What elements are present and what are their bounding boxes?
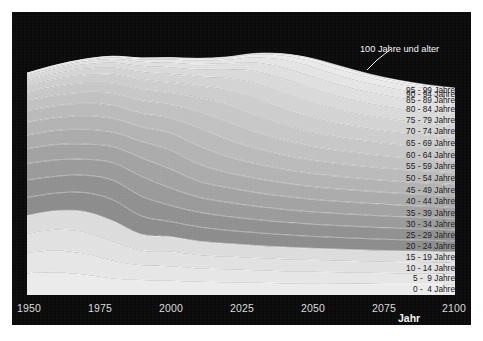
band-label: 30 - 34 Jahre	[406, 220, 455, 229]
callout-label: 100 Jahre und alter	[360, 44, 439, 54]
band-label: 75 - 79 Jahre	[406, 116, 455, 125]
band-label: 35 - 39 Jahre	[406, 209, 455, 218]
band-label: 70 - 74 Jahre	[406, 127, 455, 136]
band-label: 55 - 59 Jahre	[406, 162, 455, 171]
band-label: 25 - 29 Jahre	[406, 231, 455, 240]
figure-root: 95 - 99 Jahre90 - 94 Jahre85 - 89 Jahre8…	[0, 0, 483, 341]
band-label: 15 - 19 Jahre	[406, 253, 455, 262]
band-label: 45 - 49 Jahre	[406, 186, 455, 195]
band-label: 40 - 44 Jahre	[406, 197, 455, 206]
x-tick-2100: 2100	[442, 302, 466, 314]
x-tick-2000: 2000	[159, 302, 183, 314]
band-label: 0 - 4 Jahre	[413, 285, 455, 294]
band-label: 50 - 54 Jahre	[406, 174, 455, 183]
x-axis-title: Jahr	[398, 312, 420, 324]
band-label: 20 - 24 Jahre	[406, 242, 455, 251]
x-tick-2050: 2050	[301, 302, 325, 314]
x-tick-2075: 2075	[372, 302, 396, 314]
band-label: 60 - 64 Jahre	[406, 151, 455, 160]
band-label: 65 - 69 Jahre	[406, 139, 455, 148]
x-tick-1975: 1975	[88, 302, 112, 314]
plot-canvas: 95 - 99 Jahre90 - 94 Jahre85 - 89 Jahre8…	[12, 12, 471, 325]
band-label: 80 - 84 Jahre	[406, 105, 455, 114]
x-tick-2025: 2025	[230, 302, 254, 314]
x-tick-1950: 1950	[17, 302, 41, 314]
band-label: 10 - 14 Jahre	[406, 264, 455, 273]
band-label: 5 - 9 Jahre	[413, 274, 455, 283]
